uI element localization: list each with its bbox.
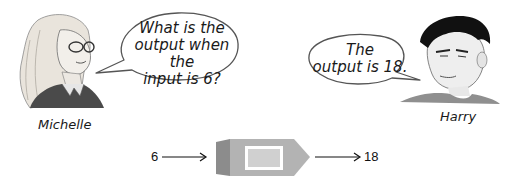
- speech-line: input is 6?: [128, 71, 236, 88]
- machine-output-value: 18: [364, 149, 378, 164]
- speech-line: The: [312, 42, 408, 59]
- speech-line: output is 18.: [312, 59, 408, 76]
- machine-input-value: 6: [151, 149, 158, 164]
- speech-line: output when the: [128, 37, 236, 71]
- harry-speech-text: The output is 18.: [312, 42, 408, 76]
- michelle-portrait: [20, 15, 104, 108]
- function-machine: [162, 139, 360, 176]
- machine-side-face: [216, 139, 230, 176]
- machine-window-inner: [248, 149, 280, 167]
- speech-line: What is the: [128, 20, 236, 37]
- illustration: [0, 0, 506, 183]
- harry-portrait: [400, 16, 500, 104]
- harry-name-label: Harry: [440, 109, 476, 124]
- michelle-speech-text: What is the output when the input is 6?: [128, 20, 236, 88]
- michelle-name-label: Michelle: [38, 117, 91, 132]
